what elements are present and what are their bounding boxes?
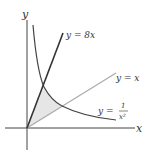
diagram-canvas: y x y = 8x y = x y = 1 x² (0, 0, 149, 153)
label-fraction-denominator: x² (119, 113, 126, 121)
shaded-region (27, 87, 62, 128)
label-y-equals-8x: y = 8x (65, 30, 95, 40)
label-y-equals-x: y = x (115, 73, 139, 83)
label-y-equals-inverse-x-squared-prefix: y = (97, 106, 114, 116)
y-axis-label: y (21, 8, 29, 21)
label-fraction-numerator: 1 (121, 102, 125, 110)
x-axis-label: x (136, 122, 143, 135)
